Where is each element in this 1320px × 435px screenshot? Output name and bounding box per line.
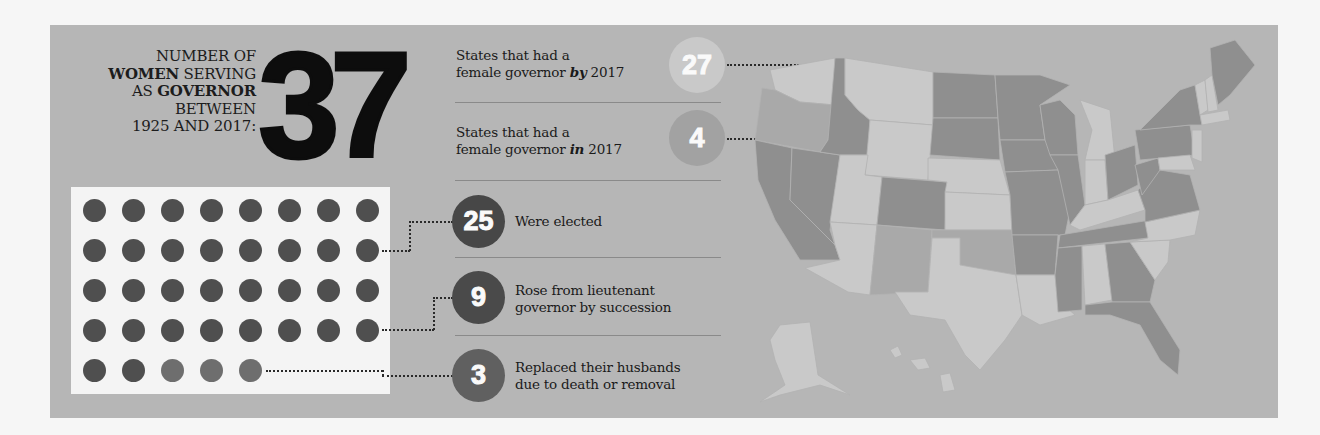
- stat-replaced-value: 3: [452, 349, 505, 402]
- us-map: [740, 30, 1260, 410]
- stat-elected-label: Were elected: [515, 213, 602, 230]
- stat-by2017-label: States that had a female governor by 201…: [456, 47, 624, 81]
- governor-dot: [83, 199, 106, 222]
- governor-dot: [200, 279, 223, 302]
- stat-succession-line2: governor by succession: [515, 299, 671, 316]
- governor-dot: [122, 239, 145, 262]
- state-kansas: [945, 192, 1012, 230]
- headline-serving: SERVING: [179, 65, 256, 83]
- governor-dot: [161, 199, 184, 222]
- governor-dot: [200, 239, 223, 262]
- governor-dot: [239, 359, 262, 382]
- state-wyoming: [865, 120, 933, 180]
- state-florida: [1085, 302, 1180, 375]
- state-south-dakota: [930, 118, 1000, 160]
- stat-succession-value: 9: [452, 271, 505, 324]
- total-count: 37: [258, 30, 402, 180]
- state-colorado: [877, 177, 947, 230]
- state-maine: [1210, 40, 1255, 105]
- stat-by2017-value: 27: [669, 37, 725, 93]
- divider: [455, 335, 721, 336]
- governor-dot: [83, 279, 106, 302]
- governor-dot: [317, 199, 340, 222]
- connector-elected-a: [382, 250, 410, 252]
- governor-dot: [122, 279, 145, 302]
- stat-in2017-pre: female governor: [456, 141, 570, 157]
- governor-dot: [122, 319, 145, 342]
- headline-line-4: BETWEEN: [66, 101, 256, 119]
- governor-dot: [200, 359, 223, 382]
- governor-dot: [200, 199, 223, 222]
- state-alaska: [760, 322, 850, 402]
- governor-dot: [317, 239, 340, 262]
- governor-dot: [278, 199, 301, 222]
- state-new-jersey: [1192, 130, 1202, 162]
- stat-in2017-line1: States that had a: [456, 124, 622, 141]
- stat-elected-line1: Were elected: [515, 213, 602, 230]
- connector-replaced-c: [382, 375, 453, 377]
- state-maryland: [1158, 155, 1195, 170]
- governor-dot: [356, 319, 379, 342]
- governor-dot: [200, 319, 223, 342]
- governor-dot: [83, 239, 106, 262]
- headline-line-5: 1925 AND 2017:: [66, 118, 256, 136]
- state-hawaii: [890, 346, 955, 392]
- state-new-york: [1140, 85, 1202, 130]
- governor-dot: [239, 199, 262, 222]
- connector-succession-c: [433, 297, 453, 299]
- headline-as: AS: [132, 82, 157, 100]
- stat-by2017-line2: female governor by 2017: [456, 64, 624, 81]
- stat-replaced-label: Replaced their husbands due to death or …: [515, 359, 681, 393]
- governor-dot: [317, 319, 340, 342]
- stat-in2017-post: 2017: [584, 141, 622, 157]
- stat-succession-label: Rose from lieutenant governor by success…: [515, 282, 671, 316]
- headline-line-1: NUMBER OF: [66, 48, 256, 66]
- governor-dot: [317, 279, 340, 302]
- stat-in2017-value: 4: [669, 110, 725, 166]
- headline: NUMBER OF WOMEN SERVING AS GOVERNOR BETW…: [66, 48, 256, 136]
- state-indiana: [1085, 160, 1108, 205]
- connector-replaced-a: [266, 370, 383, 372]
- governor-dot: [356, 239, 379, 262]
- connector-elected-b: [409, 221, 411, 251]
- stat-in2017-em: in: [570, 141, 585, 157]
- divider: [455, 257, 721, 258]
- governor-dot: [122, 199, 145, 222]
- headline-governor: GOVERNOR: [157, 82, 256, 100]
- governor-dot: [161, 319, 184, 342]
- governor-dot: [278, 239, 301, 262]
- stat-by2017-line1: States that had a: [456, 47, 624, 64]
- stat-in2017-label: States that had a female governor in 201…: [456, 124, 622, 158]
- connector-elected-c: [409, 221, 453, 223]
- governor-dot: [356, 199, 379, 222]
- state-arkansas: [1012, 235, 1058, 275]
- governor-dot: [83, 319, 106, 342]
- stat-in2017-line2: female governor in 2017: [456, 141, 622, 158]
- governor-dot: [161, 279, 184, 302]
- stat-by2017-pre: female governor: [456, 64, 570, 80]
- governor-dot: [161, 359, 184, 382]
- headline-line-3: AS GOVERNOR: [66, 83, 256, 101]
- stat-replaced-line1: Replaced their husbands: [515, 359, 681, 376]
- state-michigan: [1080, 100, 1115, 160]
- governor-dot: [239, 239, 262, 262]
- dot-grid: [71, 187, 390, 394]
- divider: [455, 180, 721, 181]
- headline-line-2: WOMEN SERVING: [66, 66, 256, 84]
- connector-succession-a: [382, 329, 434, 331]
- governor-dot: [239, 319, 262, 342]
- state-pennsylvania: [1135, 125, 1195, 160]
- state-mississippi: [1055, 246, 1082, 312]
- governor-dot: [278, 279, 301, 302]
- stat-by2017-em: by: [570, 64, 587, 80]
- governor-dot: [122, 359, 145, 382]
- divider: [455, 102, 721, 103]
- governor-dot: [239, 279, 262, 302]
- stat-replaced-line2: due to death or removal: [515, 376, 681, 393]
- governor-dot: [278, 319, 301, 342]
- connector-succession-b: [433, 297, 435, 330]
- state-north-dakota: [933, 72, 998, 118]
- headline-women: WOMEN: [108, 65, 179, 83]
- stat-elected-value: 25: [452, 195, 505, 248]
- stat-by2017-post: 2017: [587, 64, 625, 80]
